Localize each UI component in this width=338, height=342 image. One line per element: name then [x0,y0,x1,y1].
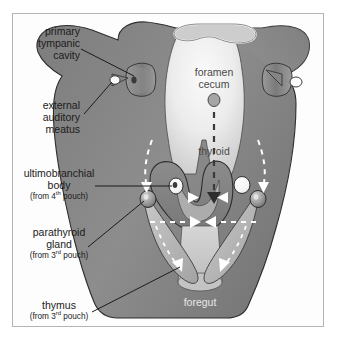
label-parathyroid-gland-pouch: (from 3rd pouch) [14,251,104,260]
label-external-auditory-meatus-line3: meatus [0,124,80,136]
pouch-prefix: (from 4 [30,192,56,201]
label-foramen-cecum: foramen cecum [174,66,254,90]
label-foramen-cecum-line1: foramen [174,66,254,78]
pouch-prefix: (from 3 [30,251,56,260]
label-primary-tympanic-cavity-line2: tympanic [0,38,80,50]
label-thyroid: thyroid [174,145,254,157]
pouch-suffix: pouch) [61,251,88,260]
parathyroid-gland-right [250,191,266,208]
parathyroid-gland-left [140,191,156,208]
label-foramen-cecum-line2: cecum [174,78,254,90]
pouch-suffix: pouch) [61,192,88,201]
anatomical-diagram-figure: primary tympanic cavity external auditor… [0,0,338,342]
primary-tympanic-cavity-right [262,63,292,96]
label-foregut: foregut [162,296,238,308]
ultimobranchial-body-right [234,177,250,194]
label-ultimobranchial-body-pouch: (from 4th pouch) [14,192,104,201]
label-external-auditory-meatus-line2: auditory [0,112,80,124]
pouch-prefix: (from 3 [30,312,56,321]
foramen-cecum-marker [208,94,220,107]
label-ultimobranchial-body: ultimobranchial body (from 4th pouch) [14,168,104,201]
label-primary-tympanic-cavity-line3: cavity [0,50,80,62]
label-external-auditory-meatus: external auditory meatus [0,100,80,136]
pouch-suffix: pouch) [61,312,88,321]
label-thymus-pouch: (from 3rd pouch) [14,312,104,321]
label-primary-tympanic-cavity: primary tympanic cavity [0,26,80,62]
external-auditory-meatus-right [290,77,302,87]
label-thymus: thymus (from 3rd pouch) [14,300,104,321]
label-parathyroid-gland: parathyroid gland (from 3rd pouch) [14,227,104,260]
